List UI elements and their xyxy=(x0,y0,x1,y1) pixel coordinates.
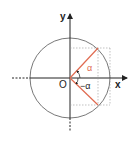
angle-minus-alpha-label: −α xyxy=(80,81,90,91)
angle-arc-alpha xyxy=(77,71,80,78)
unit-circle-diagram: y x O α −α xyxy=(0,0,135,141)
angle-arc-minus-alpha xyxy=(76,78,78,84)
x-axis-label: x xyxy=(115,79,121,90)
angle-alpha-label: α xyxy=(87,63,92,73)
y-axis-label: y xyxy=(60,11,66,22)
origin-label: O xyxy=(59,79,67,90)
ray-alpha xyxy=(70,48,98,78)
